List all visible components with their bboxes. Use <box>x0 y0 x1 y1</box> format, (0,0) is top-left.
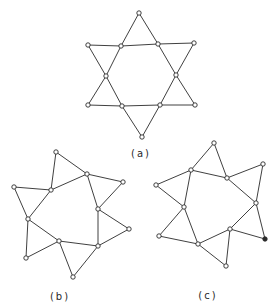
bond-edge <box>88 76 106 105</box>
bond-edge <box>226 229 230 266</box>
vertex-node <box>85 172 89 176</box>
bond-edge <box>198 244 226 266</box>
panel-b-label: (b) <box>50 291 70 302</box>
vertex-node <box>127 227 131 231</box>
bond-edge <box>156 170 191 185</box>
bond-edge <box>14 187 28 219</box>
panel-a-label: (a) <box>131 148 151 159</box>
bond-edge <box>28 190 51 219</box>
bond-edge <box>256 203 265 239</box>
vertex-node <box>193 103 197 107</box>
bond-edge <box>184 207 198 244</box>
bond-edge <box>122 106 142 137</box>
bond-edge <box>256 164 263 203</box>
bond-edge <box>191 170 227 178</box>
vertex-node <box>12 185 16 189</box>
vertex-node <box>49 188 53 192</box>
bond-edge <box>51 152 56 190</box>
bond-edge <box>158 44 176 75</box>
vertex-node <box>225 176 229 180</box>
bond-edge <box>88 45 121 46</box>
bond-edge <box>176 75 195 105</box>
vertex-node <box>104 74 108 78</box>
bond-edge <box>98 182 123 209</box>
vertex-node <box>96 207 100 211</box>
vertex-node <box>26 217 30 221</box>
bond-edge <box>28 219 59 241</box>
bond-edge <box>184 170 191 207</box>
panel-b-twisted-hexagram <box>12 150 131 279</box>
vertex-node <box>224 264 228 268</box>
bond-edge <box>176 43 194 75</box>
bond-edge <box>98 229 129 246</box>
vertex-node <box>96 244 100 248</box>
vertex-node <box>158 103 162 107</box>
vertex-node <box>157 234 161 238</box>
bond-edge <box>121 44 158 46</box>
bond-edge <box>73 246 98 277</box>
bond-edge <box>160 75 176 105</box>
vertex-node <box>189 168 193 172</box>
panel-a-regular-hexagram <box>86 11 197 139</box>
bond-edge <box>106 46 121 76</box>
bond-edge <box>98 209 129 229</box>
vertex-node <box>192 41 196 45</box>
vertex-node <box>86 43 90 47</box>
bond-edge <box>106 76 122 106</box>
bond-edge <box>230 203 256 229</box>
bond-edge <box>156 185 184 207</box>
vertex-node <box>254 201 258 205</box>
vertex-node <box>182 205 186 209</box>
panel-c-label: (c) <box>198 290 217 301</box>
hexagram-lattice-diagram: (a) (b) (c) <box>0 0 277 308</box>
bond-edge <box>26 241 59 258</box>
bond-edge <box>159 236 198 244</box>
vertex-node <box>57 239 61 243</box>
vertex-node <box>137 11 141 15</box>
bond-edge <box>87 174 98 209</box>
vertex-node <box>119 44 123 48</box>
bond-edge <box>122 105 160 106</box>
bond-edge <box>191 143 214 170</box>
bond-edge <box>59 241 73 277</box>
vertex-node <box>121 180 125 184</box>
bond-edge <box>142 105 160 137</box>
bond-edge <box>214 143 227 178</box>
vertex-node <box>154 183 158 187</box>
vertex-node <box>228 227 232 231</box>
vertex-node <box>24 256 28 260</box>
vertex-node <box>120 104 124 108</box>
vertex-node <box>174 73 178 77</box>
bond-edge <box>59 241 98 246</box>
bond-edge <box>56 152 87 174</box>
bond-edge <box>139 13 158 44</box>
vertex-node <box>86 103 90 107</box>
vertex-node <box>71 275 75 279</box>
vertex-node <box>261 162 265 166</box>
vertex-node <box>140 135 144 139</box>
vertex-node <box>156 42 160 46</box>
bond-edge <box>51 174 87 190</box>
filled-vertex-node <box>263 237 267 241</box>
bond-edge <box>227 164 263 178</box>
vertex-node <box>54 150 58 154</box>
bond-edge <box>88 45 106 76</box>
bond-edge <box>87 174 123 182</box>
bond-edge <box>14 187 51 190</box>
bond-edge <box>121 13 139 46</box>
bond-edge <box>158 43 194 44</box>
bond-edge <box>26 219 28 258</box>
panel-c-distorted-hexagram <box>154 141 267 268</box>
bond-edge <box>198 229 230 244</box>
bond-edge <box>159 207 184 236</box>
bond-edge <box>227 178 256 203</box>
bond-edge <box>88 105 122 106</box>
vertex-node <box>196 242 200 246</box>
bond-edge <box>230 229 265 239</box>
vertex-node <box>212 141 216 145</box>
